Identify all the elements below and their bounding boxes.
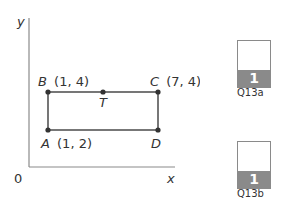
label-t: T xyxy=(99,95,108,110)
point-t xyxy=(100,89,105,94)
mark-value: 1 xyxy=(238,171,270,188)
label-d: D xyxy=(151,136,161,151)
label-a: A (1, 2) xyxy=(40,136,92,151)
mark-entry-area xyxy=(238,142,270,171)
origin-label: 0 xyxy=(14,171,22,186)
mark-value: 1 xyxy=(238,70,270,87)
point-c xyxy=(155,89,160,94)
point-b xyxy=(45,89,50,94)
point-d xyxy=(155,127,160,132)
mark-label-q13b: Q13b xyxy=(237,188,264,199)
point-a xyxy=(45,127,50,132)
mark-box-q13a: 1 xyxy=(237,40,271,88)
mark-box-q13b: 1 xyxy=(237,141,271,189)
mark-label-q13a: Q13a xyxy=(237,87,264,98)
coordinate-diagram: y x 0 B (1, 4) C (7, 4) A (1, 2) D T xyxy=(0,0,200,206)
mark-entry-area xyxy=(238,41,270,70)
y-axis-label: y xyxy=(16,14,25,29)
label-c: C (7, 4) xyxy=(150,74,200,89)
x-axis-label: x xyxy=(166,171,175,186)
label-b: B (1, 4) xyxy=(38,74,89,89)
